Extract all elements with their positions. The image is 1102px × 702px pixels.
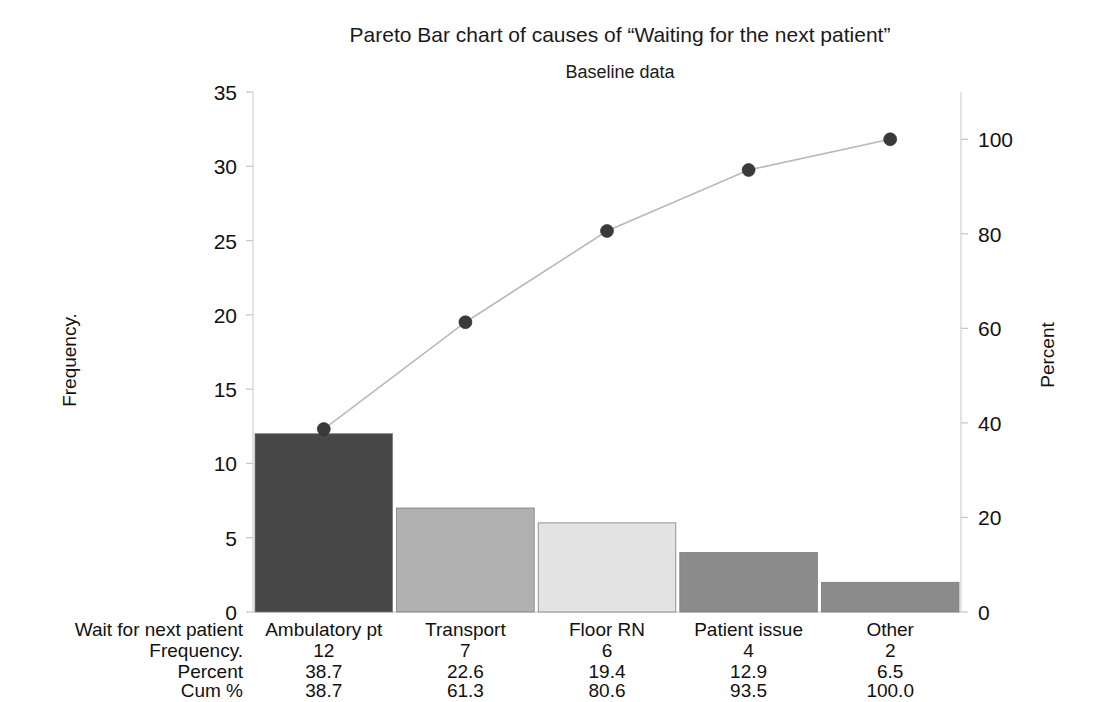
category-label-5: Other <box>866 619 914 640</box>
table-cell-percent-5: 6.5 <box>877 661 903 682</box>
category-label-2: Transport <box>425 619 506 640</box>
right-axis-ticks: 020406080100 <box>961 128 1013 624</box>
right-tick-label: 40 <box>978 412 1001 435</box>
left-axis-title: Frequency. <box>59 313 80 407</box>
bar-5 <box>821 582 959 612</box>
right-tick-label: 60 <box>978 317 1001 340</box>
table-row-cum-percent: 38.761.380.693.5100.0 <box>305 680 914 701</box>
category-label-1: Ambulatory pt <box>265 619 383 640</box>
table-cell-frequency-4: 4 <box>743 640 754 661</box>
table-row-label-1: Wait for next patient <box>75 619 244 640</box>
cumulative-marker-4 <box>742 164 755 177</box>
cumulative-marker-2 <box>459 316 472 329</box>
pareto-chart: Pareto Bar chart of causes of “Waiting f… <box>0 0 1102 702</box>
table-cell-percent-1: 38.7 <box>305 661 342 682</box>
left-tick-label: 30 <box>214 155 237 178</box>
cumulative-marker-3 <box>601 224 614 237</box>
table-cell-percent-2: 22.6 <box>447 661 484 682</box>
table-cell-cum-percent-2: 61.3 <box>447 680 484 701</box>
table-cell-cum-percent-4: 93.5 <box>730 680 767 701</box>
right-tick-label: 0 <box>978 601 990 624</box>
table-cell-percent-4: 12.9 <box>730 661 767 682</box>
right-axis-title: Percent <box>1037 322 1058 388</box>
table-cell-cum-percent-3: 80.6 <box>589 680 626 701</box>
bar-4 <box>680 553 818 612</box>
table-row-labels: Wait for next patientFrequency.PercentCu… <box>75 619 244 701</box>
table-cell-frequency-3: 6 <box>602 640 613 661</box>
category-labels: Ambulatory ptTransportFloor RNPatient is… <box>265 619 914 640</box>
table-cell-cum-percent-5: 100.0 <box>866 680 914 701</box>
chart-subtitle: Baseline data <box>565 62 675 82</box>
category-label-3: Floor RN <box>569 619 645 640</box>
bar-1 <box>255 434 393 612</box>
table-row-percent: 38.722.619.412.96.5 <box>305 661 903 682</box>
cumulative-line <box>324 139 890 429</box>
right-tick-label: 80 <box>978 223 1001 246</box>
left-axis-ticks: 05101520253035 <box>214 81 253 624</box>
cumulative-marker-5 <box>884 133 897 146</box>
table-row-label-2: Frequency. <box>149 640 243 661</box>
category-label-4: Patient issue <box>694 619 803 640</box>
table-cell-frequency-1: 12 <box>313 640 334 661</box>
left-tick-label: 15 <box>214 378 237 401</box>
table-cell-frequency-2: 7 <box>460 640 471 661</box>
table-cell-cum-percent-1: 38.7 <box>305 680 342 701</box>
bar-series <box>255 434 959 612</box>
bar-2 <box>397 508 535 612</box>
bar-3 <box>538 523 676 612</box>
cumulative-marker-1 <box>317 423 330 436</box>
table-row-label-3: Percent <box>178 661 244 682</box>
left-tick-label: 25 <box>214 230 237 253</box>
chart-title: Pareto Bar chart of causes of “Waiting f… <box>350 23 891 46</box>
right-tick-label: 100 <box>978 128 1013 151</box>
left-tick-label: 20 <box>214 304 237 327</box>
table-cell-frequency-5: 2 <box>885 640 896 661</box>
left-tick-label: 35 <box>214 81 237 104</box>
cumulative-markers <box>317 133 896 436</box>
left-tick-label: 5 <box>225 527 237 550</box>
right-tick-label: 20 <box>978 506 1001 529</box>
table-row-frequency: 127642 <box>313 640 895 661</box>
pareto-chart-svg: Pareto Bar chart of causes of “Waiting f… <box>0 0 1102 702</box>
left-tick-label: 10 <box>214 452 237 475</box>
table-row-label-4: Cum % <box>181 680 243 701</box>
table-cell-percent-3: 19.4 <box>589 661 626 682</box>
